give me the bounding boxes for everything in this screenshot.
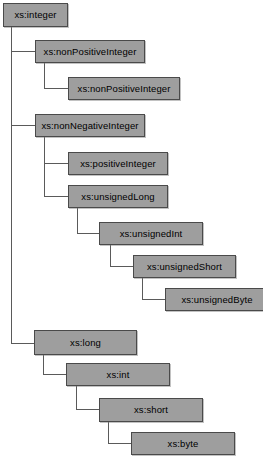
node-label: xs:nonPositiveInteger [75, 84, 174, 94]
edge-long-drop [43, 355, 44, 375]
node-label: xs:positiveInteger [77, 159, 159, 169]
node-label: xs:byte [165, 439, 202, 449]
node-label: xs:unsignedByte [178, 295, 255, 305]
node-label: xs:unsignedLong [78, 192, 157, 202]
node-integer[interactable]: xs:integer [3, 3, 68, 27]
edge-nonpositiveinteger-to-negativeinteger [44, 88, 68, 89]
node-byte[interactable]: xs:byte [131, 432, 235, 455]
edge-long-to-int [43, 374, 66, 375]
edge-unsignedlong-to-unsignedint [77, 233, 99, 234]
node-label: xs:long [67, 338, 104, 348]
edge-short-drop [108, 422, 109, 444]
node-label: xs:short [131, 405, 171, 415]
edge-unsignedint-to-unsignedshort [110, 266, 133, 267]
edge-short-to-byte [108, 443, 131, 444]
edge-unsignedlong-drop [77, 208, 78, 234]
node-label: xs:nonPositiveInteger [41, 47, 140, 57]
edge-integer-to-nonnegativeinteger [11, 125, 35, 126]
edge-int-to-short [76, 409, 99, 410]
node-unsignedshort[interactable]: xs:unsignedShort [133, 255, 236, 278]
edge-nonnegativeinteger-to-unsignedlong [44, 196, 68, 197]
edge-integer-to-long [11, 343, 34, 344]
node-unsignedint[interactable]: xs:unsignedInt [99, 222, 203, 245]
node-long[interactable]: xs:long [34, 330, 137, 355]
node-label: xs:nonNegativeInteger [38, 121, 141, 131]
node-negativeinteger[interactable]: xs:nonPositiveInteger [68, 77, 180, 100]
node-nonpositiveinteger[interactable]: xs:nonPositiveInteger [35, 40, 145, 63]
node-label: xs:integer [11, 10, 59, 20]
edge-unsignedint-drop [110, 245, 111, 267]
edge-unsignedshort-drop [142, 278, 143, 300]
type-hierarchy-diagram: xs:integer xs:nonPositiveInteger xs:nonP… [0, 0, 263, 465]
edge-int-drop [76, 386, 77, 410]
edge-nonpositiveinteger-drop [44, 63, 45, 89]
node-label: xs:unsignedInt [117, 229, 186, 239]
edge-nonnegativeinteger-to-positiveinteger [44, 163, 68, 164]
edge-unsignedshort-to-unsignedbyte [142, 299, 165, 300]
node-unsignedlong[interactable]: xs:unsignedLong [68, 185, 168, 208]
node-int[interactable]: xs:int [66, 363, 170, 386]
edge-integer-trunk [11, 27, 12, 344]
node-short[interactable]: xs:short [99, 398, 203, 422]
node-nonnegativeinteger[interactable]: xs:nonNegativeInteger [35, 114, 145, 137]
node-positiveinteger[interactable]: xs:positiveInteger [68, 152, 168, 175]
edge-integer-to-nonpositiveinteger [11, 51, 35, 52]
node-label: xs:int [104, 370, 133, 380]
node-label: xs:unsignedShort [144, 262, 225, 272]
edge-nonnegativeinteger-drop [44, 137, 45, 197]
node-unsignedbyte[interactable]: xs:unsignedByte [165, 288, 263, 311]
